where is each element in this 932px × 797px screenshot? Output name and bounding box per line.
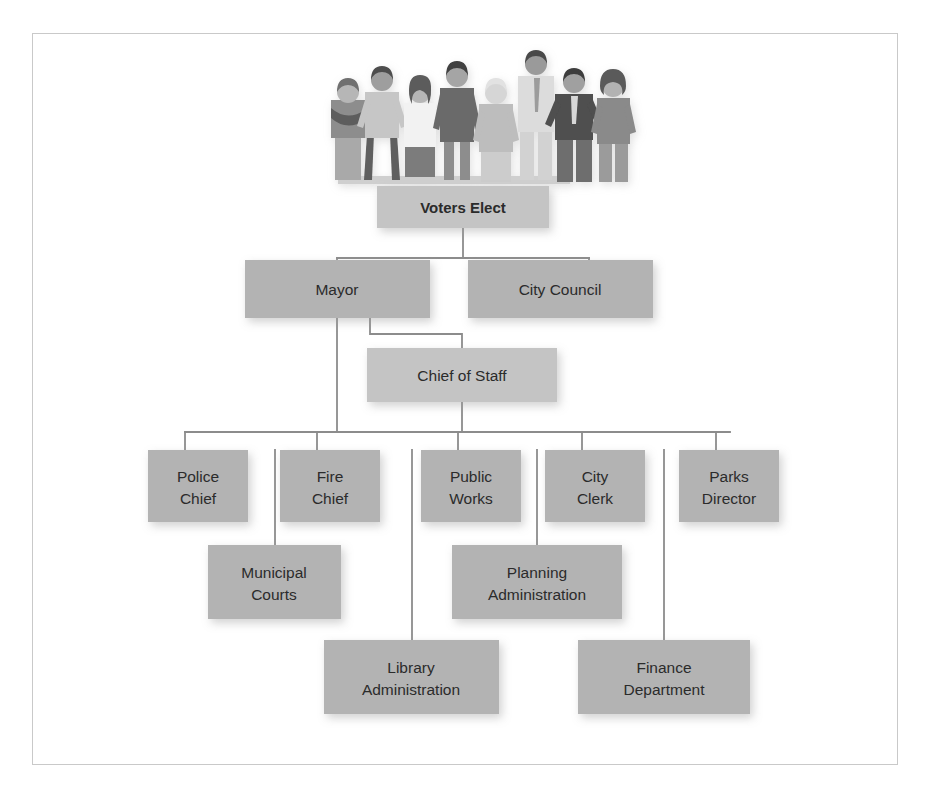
node-planning-administration[interactable]: Planning Administration <box>452 545 622 619</box>
node-label-chief-of-staff: Chief of Staff <box>417 367 507 384</box>
node-mayor[interactable]: Mayor <box>245 260 430 318</box>
node-label-finance-line1: Finance <box>636 659 691 676</box>
node-label-finance-line2: Department <box>624 681 706 698</box>
node-label-parks-director-line1: Parks <box>709 468 749 485</box>
node-label-city-clerk-line2: Clerk <box>577 490 613 507</box>
node-label-planning-line2: Administration <box>488 586 586 603</box>
node-public-works[interactable]: Public Works <box>421 450 521 522</box>
node-label-fire-chief-line1: Fire <box>317 468 344 485</box>
node-label-police-chief-line1: Police <box>177 468 219 485</box>
node-parks-director[interactable]: Parks Director <box>679 450 779 522</box>
node-library-administration[interactable]: Library Administration <box>324 640 499 714</box>
node-municipal-courts[interactable]: Municipal Courts <box>208 545 341 619</box>
node-finance-department[interactable]: Finance Department <box>578 640 750 714</box>
node-voters-elect[interactable]: Voters Elect <box>377 186 549 228</box>
node-label-city-council: City Council <box>519 281 602 298</box>
person-figure-6 <box>518 50 554 180</box>
node-label-municipal-courts-line2: Courts <box>251 586 297 603</box>
node-label-public-works-line1: Public <box>450 468 492 485</box>
node-label-library-line1: Library <box>387 659 435 676</box>
node-label-police-chief-line2: Chief <box>180 490 217 507</box>
person-figure-2 <box>357 66 407 180</box>
org-chart-nodes: Voters Elect Mayor City Council Chief of… <box>148 186 779 714</box>
node-label-parks-director-line2: Director <box>702 490 756 507</box>
person-figure-1 <box>331 78 365 180</box>
org-chart-page: Voters Elect Mayor City Council Chief of… <box>0 0 932 797</box>
node-chief-of-staff[interactable]: Chief of Staff <box>367 348 557 402</box>
group-of-voters-illustration <box>331 50 636 184</box>
node-label-city-clerk-line1: City <box>582 468 609 485</box>
node-city-clerk[interactable]: City Clerk <box>545 450 645 522</box>
person-figure-8 <box>591 69 636 182</box>
node-city-council[interactable]: City Council <box>468 260 653 318</box>
node-label-public-works-line2: Works <box>449 490 493 507</box>
edge-mayor-to-chief-of-staff <box>370 318 462 348</box>
person-figure-4 <box>433 61 481 180</box>
node-label-planning-line1: Planning <box>507 564 567 581</box>
node-label-voters-elect: Voters Elect <box>420 199 506 216</box>
node-police-chief[interactable]: Police Chief <box>148 450 248 522</box>
node-label-library-line2: Administration <box>362 681 460 698</box>
person-figure-5 <box>473 78 519 182</box>
node-label-mayor: Mayor <box>315 281 358 298</box>
node-fire-chief[interactable]: Fire Chief <box>280 450 380 522</box>
node-label-fire-chief-line2: Chief <box>312 490 349 507</box>
org-chart-svg: Voters Elect Mayor City Council Chief of… <box>0 0 932 797</box>
node-label-municipal-courts-line1: Municipal <box>241 564 306 581</box>
